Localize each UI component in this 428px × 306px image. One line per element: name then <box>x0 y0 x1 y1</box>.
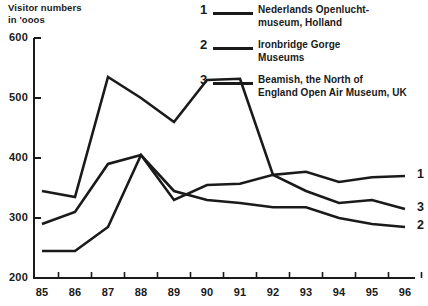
x-axis-tick-label: 86 <box>65 286 85 298</box>
x-axis-tick-label: 95 <box>362 286 382 298</box>
x-axis-tick-label: 85 <box>32 286 52 298</box>
chart-legend: 1 Nederlands Openlucht- museum, Holland … <box>200 4 426 109</box>
y-axis-tick-label: 600 <box>2 31 28 43</box>
x-axis-tick-label: 96 <box>395 286 415 298</box>
legend-line-swatch <box>213 12 253 15</box>
y-axis-tick-label: 300 <box>2 211 28 223</box>
legend-item: 2 Ironbridge Gorge Museums <box>200 39 426 69</box>
legend-label: Ironbridge Gorge Museums <box>258 39 426 64</box>
x-axis-tick-label: 93 <box>296 286 316 298</box>
y-axis-tick-label: 400 <box>2 151 28 163</box>
legend-item: 1 Nederlands Openlucht- museum, Holland <box>200 4 426 34</box>
legend-number: 2 <box>200 37 207 52</box>
legend-line-swatch <box>213 47 253 50</box>
series-end-label-3: 3 <box>417 200 424 214</box>
y-axis-tick-label: 500 <box>2 91 28 103</box>
legend-item: 3 Beamish, the North of England Open Air… <box>200 74 426 104</box>
x-axis-tick-label: 91 <box>230 286 250 298</box>
x-axis-tick-label: 90 <box>197 286 217 298</box>
x-axis-tick-label: 87 <box>98 286 118 298</box>
legend-label: Beamish, the North of England Open Air M… <box>258 74 426 99</box>
series-line-3 <box>42 155 405 224</box>
x-axis-tick-label: 89 <box>164 286 184 298</box>
y-axis-tick-label: 200 <box>2 271 28 283</box>
legend-line-swatch <box>213 82 253 85</box>
legend-number: 1 <box>200 2 207 17</box>
chart-figure: Visitor numbers in 'ooos 600500400300200… <box>0 0 428 306</box>
series-end-label-2: 2 <box>417 218 424 232</box>
legend-number: 3 <box>200 72 207 87</box>
legend-label: Nederlands Openlucht- museum, Holland <box>258 4 426 29</box>
x-axis-tick-label: 92 <box>263 286 283 298</box>
x-axis-tick-label: 88 <box>131 286 151 298</box>
series-end-label-1: 1 <box>417 167 424 181</box>
x-axis-tick-label: 94 <box>329 286 349 298</box>
